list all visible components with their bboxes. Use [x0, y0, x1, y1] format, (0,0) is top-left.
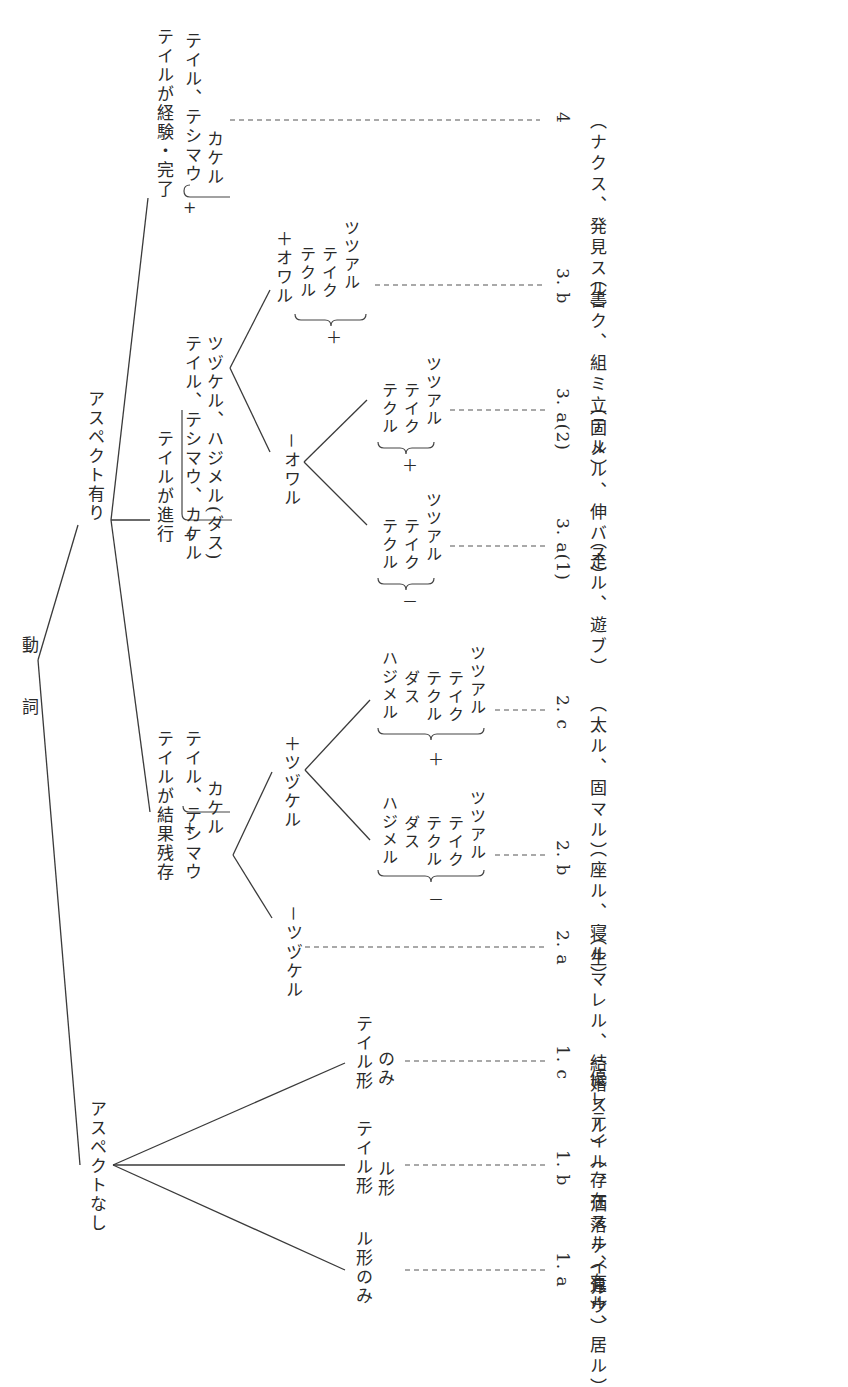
- result-state-forms-line1: テイル、テシマウ: [181, 730, 203, 882]
- 3b-item-3: ツツアル: [340, 220, 360, 292]
- 1c-label-line1: テイル形: [352, 1015, 374, 1091]
- experience-sign: +: [183, 200, 196, 216]
- 3a1-group-sign: －: [402, 594, 418, 610]
- code-3a1: 3. a(1): [553, 518, 573, 581]
- edge-to-experience: [111, 198, 148, 520]
- edge-to-2c: [305, 700, 370, 770]
- code-1b: 1. b: [553, 1150, 573, 1187]
- edge-to-2b: [305, 770, 370, 840]
- examples-1a: （有ル、居ル）: [585, 1252, 610, 1387]
- experience-forms-line1: テイル、テシマウ: [181, 32, 203, 184]
- minus-owaru-label: －オワル: [280, 432, 302, 508]
- brace-3a1: [378, 578, 434, 590]
- 1a-label: ル形のみ: [352, 1230, 374, 1306]
- edge-to-3a2: [304, 400, 367, 462]
- 3a2-item-3: ツツアル: [422, 356, 442, 428]
- aspect-present-label: アスペクト有り: [84, 390, 106, 523]
- edge-root-aspect-none: [38, 660, 80, 1165]
- 3a2-group-sign: ＋: [402, 458, 418, 474]
- edge-to-minus-owaru: [230, 368, 270, 452]
- code-1c: 1. c: [553, 1045, 573, 1080]
- result-state-forms-line2: カケル: [203, 780, 225, 837]
- 2b-item-5: ツツアル: [466, 790, 486, 862]
- 3a1-item-3: ツツアル: [422, 492, 442, 564]
- 1c-label-line2: のみ: [374, 1050, 396, 1088]
- edge-to-result-state: [111, 520, 150, 812]
- experience-forms-line2: カケル: [203, 130, 225, 187]
- 3a2-item-1: テクル: [378, 382, 398, 436]
- code-3b: 3. b: [553, 268, 573, 305]
- result-state-title: テイルが結果残存: [153, 730, 175, 882]
- 2b-group-sign: －: [428, 892, 444, 908]
- code-4: 4: [553, 112, 573, 124]
- edge-to-3a1: [304, 462, 367, 525]
- root-label: 動 詞: [18, 636, 40, 729]
- 2b-item-2: ダス: [400, 815, 420, 851]
- 2b-item-4: テイク: [444, 815, 464, 869]
- brace-3b: [295, 314, 366, 326]
- edge-to-minus-tsuzukeru: [233, 855, 272, 918]
- code-1a: 1. a: [553, 1252, 573, 1288]
- edge-to-1c: [113, 1063, 345, 1165]
- 2c-item-2: ダス: [400, 670, 420, 706]
- 2c-group-sign: ＋: [428, 752, 444, 768]
- 2b-item-3: テクル: [422, 815, 442, 869]
- brace-2b: [378, 870, 484, 882]
- 1b-label-line1: テイル形: [352, 1120, 374, 1196]
- brace-2c: [378, 728, 484, 740]
- 2b-item-1: ハジメル: [378, 795, 398, 867]
- 2c-item-1: ハジメル: [378, 650, 398, 722]
- code-2a: 2. a: [553, 930, 573, 966]
- progressive-forms-line2: ツヅケル、ハジメル(ダス): [203, 335, 225, 561]
- aspect-none-label: アスペクトなし: [86, 1100, 108, 1233]
- 3a2-item-2: テイク: [400, 382, 420, 436]
- 3b-item-1: テクル: [296, 246, 316, 300]
- 3b-item-2: テイク: [318, 246, 338, 300]
- edge-to-1a: [113, 1165, 345, 1270]
- examples-3a1: （走ル、遊ブ）: [585, 532, 610, 679]
- brace-3a2: [378, 442, 434, 454]
- plus-owaru-label: ＋オワル: [272, 230, 294, 306]
- 1b-label-line2: ル形: [374, 1160, 396, 1198]
- 3a1-item-1: テクル: [378, 518, 398, 572]
- progressive-forms-line1: テイル、テシマウ、カケル: [181, 335, 203, 563]
- plus-tsuzukeru-label: ＋ツヅケル: [280, 735, 302, 830]
- minus-tsuzukeru-label: －ツヅケル: [282, 905, 304, 1000]
- 3a1-item-2: テイク: [400, 518, 420, 572]
- code-2c: 2. c: [553, 695, 573, 730]
- experience-title: テイルが経験・完了: [153, 28, 175, 199]
- examples-2c: （太ル、固マル）: [585, 695, 610, 863]
- code-2b: 2. b: [553, 840, 573, 877]
- edge-root-aspect-present: [38, 525, 78, 660]
- edge-to-plus-owaru: [230, 290, 270, 368]
- 2c-item-4: テイク: [444, 670, 464, 724]
- progressive-title: テイルが進行: [153, 430, 175, 544]
- code-3a2: 3. a(2): [553, 388, 573, 451]
- edge-to-plus-tsuzukeru: [233, 772, 272, 855]
- 3b-group-sign: ＋: [326, 330, 342, 346]
- 2c-item-5: ツツアル: [466, 645, 486, 717]
- 2c-item-3: テクル: [422, 670, 442, 724]
